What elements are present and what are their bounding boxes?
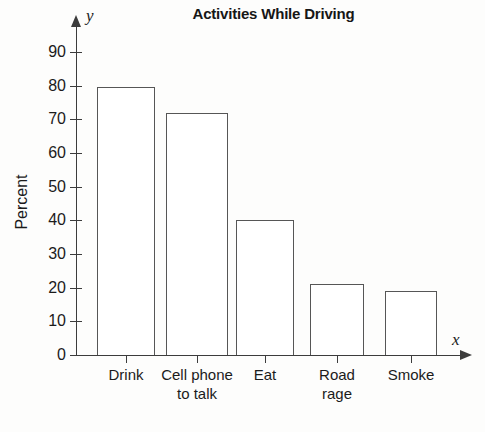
y-tick: [70, 254, 82, 255]
y-tick-label: 80: [22, 78, 66, 94]
y-tick: [70, 153, 82, 154]
bar: [310, 284, 364, 355]
y-tick: [70, 288, 82, 289]
x-tick: [411, 356, 412, 363]
chart-page: Activities While Driving y x Percent 908…: [0, 0, 485, 432]
y-tick-label: 40: [22, 212, 66, 228]
y-tick: [70, 86, 82, 87]
x-axis-arrow-icon: [460, 350, 472, 360]
y-tick: [70, 355, 82, 356]
y-axis-line: [76, 26, 77, 356]
y-tick-label: 50: [22, 179, 66, 195]
x-tick: [265, 356, 266, 363]
bar: [236, 220, 294, 355]
y-axis-arrow-icon: [71, 15, 81, 27]
y-tick-label: 90: [22, 44, 66, 60]
bar: [166, 113, 228, 355]
y-tick-label: 70: [22, 111, 66, 127]
category-label: Smoke: [361, 365, 461, 384]
y-tick: [70, 187, 82, 188]
y-tick-label: 20: [22, 280, 66, 296]
y-tick-label: 60: [22, 145, 66, 161]
x-tick: [337, 356, 338, 363]
y-axis-name: y: [86, 6, 94, 26]
y-tick: [70, 321, 82, 322]
x-axis-name: x: [452, 330, 460, 350]
x-tick: [197, 356, 198, 363]
plot-area: y x Percent 9080706050403020100 DrinkCel…: [0, 0, 485, 432]
y-tick: [70, 220, 82, 221]
bar: [97, 87, 155, 355]
y-tick-label: 10: [22, 313, 66, 329]
y-axis-title: Percent: [13, 152, 31, 252]
x-axis-line: [76, 355, 462, 356]
y-tick-label: 0: [22, 347, 66, 363]
y-tick: [70, 52, 82, 53]
y-tick-label: 30: [22, 246, 66, 262]
y-tick: [70, 119, 82, 120]
x-tick: [126, 356, 127, 363]
bar: [385, 291, 437, 355]
